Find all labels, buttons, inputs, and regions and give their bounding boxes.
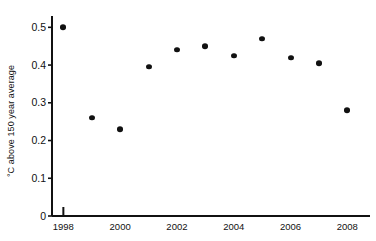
data-point (316, 60, 322, 66)
data-point (174, 47, 180, 53)
y-tick-label: 0.2 (16, 135, 46, 146)
data-point (259, 36, 265, 42)
y-tick-label: 0.4 (16, 60, 46, 71)
x-tick-label: 2006 (269, 222, 313, 232)
x-tick-label: 2002 (155, 222, 199, 232)
data-point (202, 43, 208, 49)
data-point (89, 115, 95, 121)
x-tick-label: 2004 (212, 222, 256, 232)
axis-lines (0, 0, 376, 241)
scatter-chart: °C above 150 year average 00.10.20.30.40… (0, 0, 376, 241)
y-tick-label: 0 (16, 211, 46, 222)
y-tick-label: 0.3 (16, 97, 46, 108)
data-point (231, 53, 237, 59)
data-point (60, 25, 66, 31)
y-tick-label: 0.1 (16, 173, 46, 184)
y-tick-label: 0.5 (16, 22, 46, 33)
data-point (344, 108, 350, 114)
data-point (146, 64, 152, 70)
data-point (117, 126, 123, 132)
x-tick-label: 2000 (98, 222, 142, 232)
data-point (288, 55, 294, 61)
x-tick-label: 2008 (325, 222, 369, 232)
x-tick-label: 1998 (41, 222, 85, 232)
